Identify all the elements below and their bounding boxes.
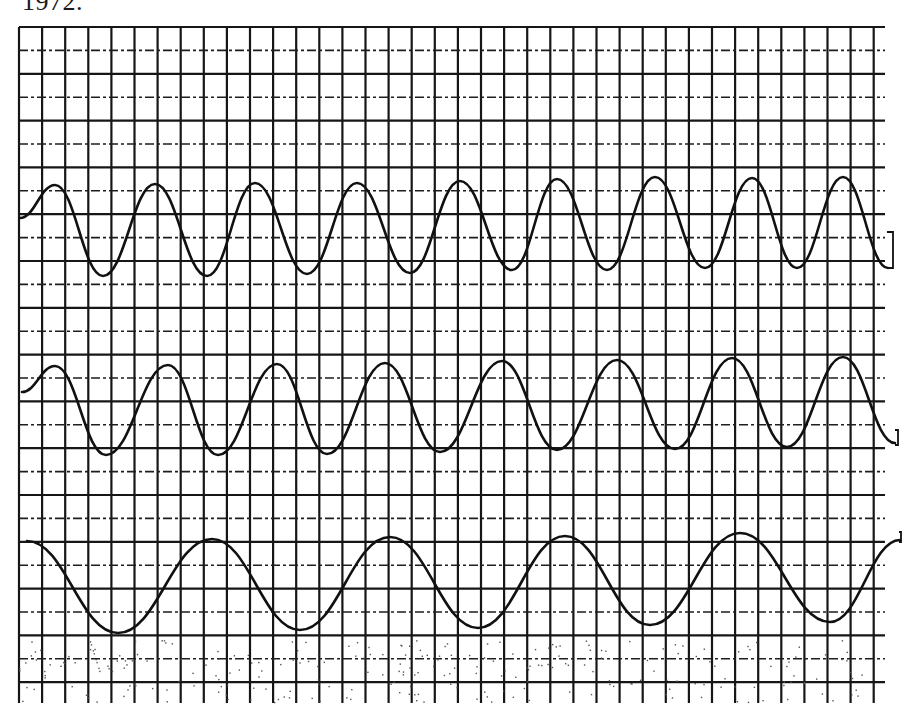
chart-recorder-plot	[0, 0, 913, 713]
graph-paper-grid	[19, 27, 885, 703]
paper-speckle-texture	[19, 640, 863, 703]
trace-end-marker-1	[887, 232, 893, 268]
